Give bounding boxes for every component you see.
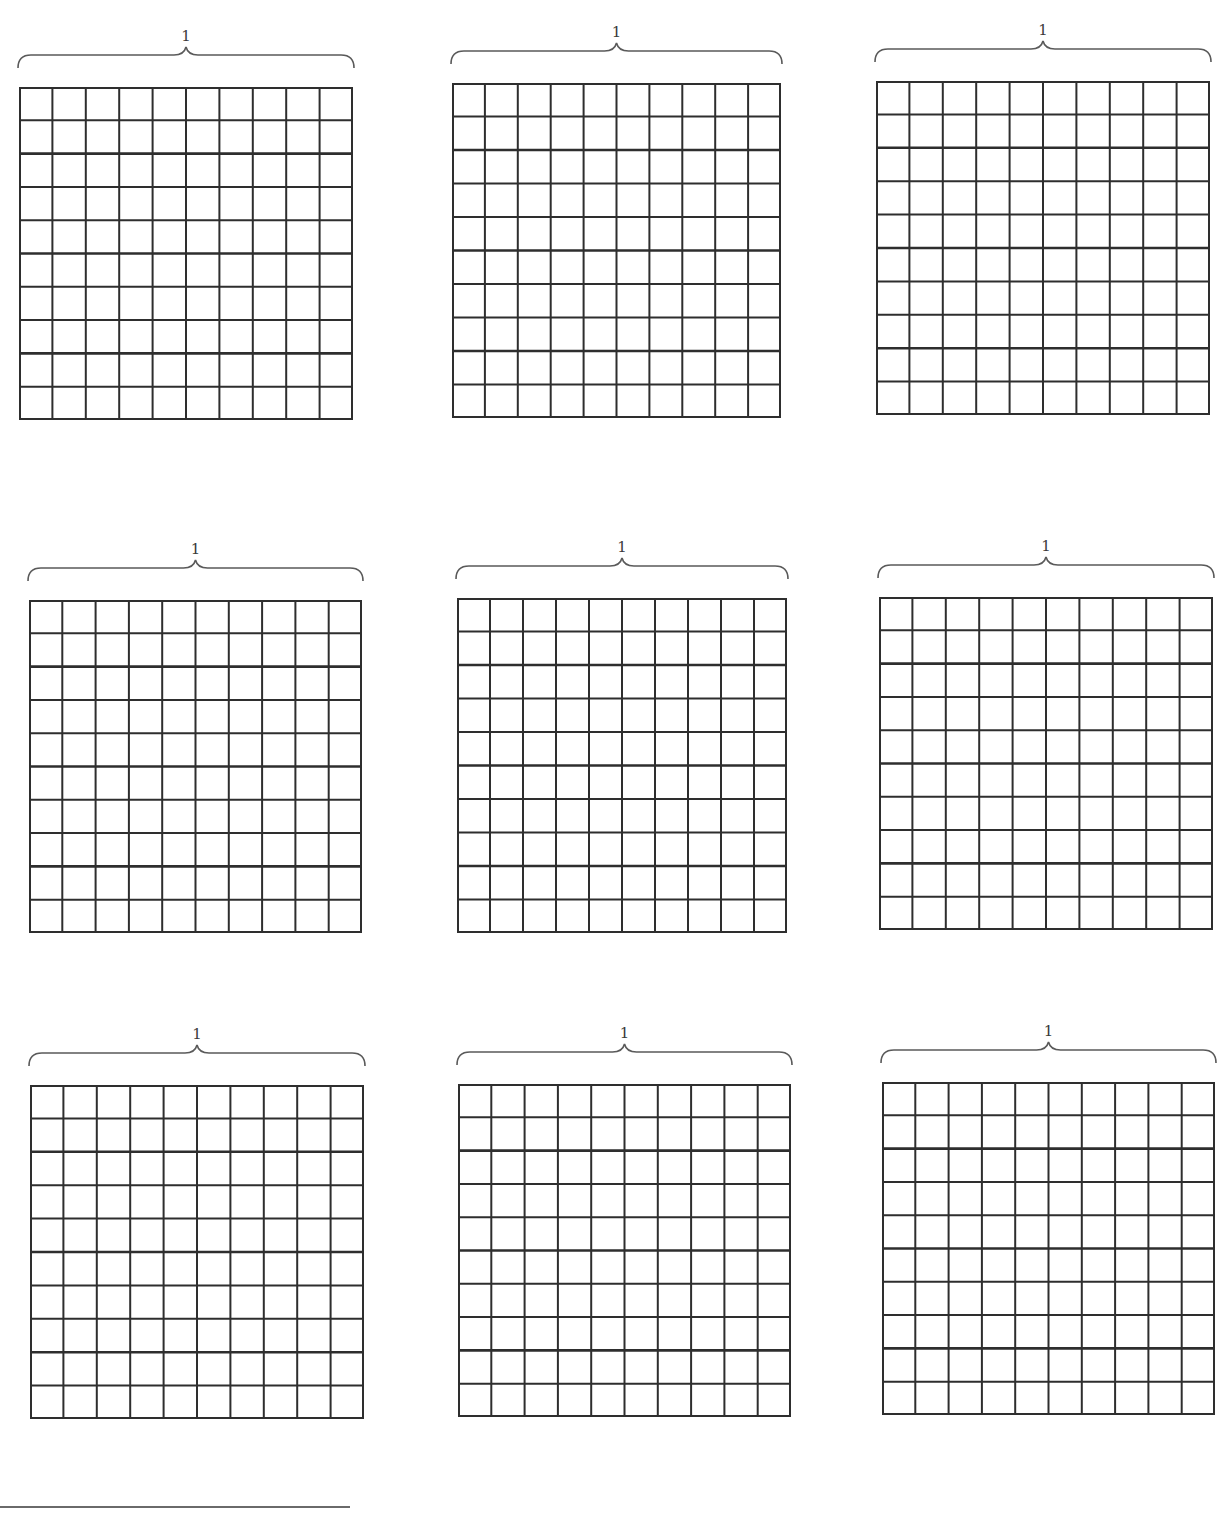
grid-cell[interactable] [946, 597, 979, 630]
grid-cell[interactable] [286, 254, 319, 287]
grid-cell[interactable] [1076, 114, 1109, 147]
grid-cell[interactable] [617, 318, 650, 352]
grid-cell[interactable] [1148, 1249, 1181, 1282]
grid-cell[interactable] [649, 318, 682, 352]
grid-cell[interactable] [452, 284, 485, 318]
grid-cell[interactable] [63, 1386, 96, 1419]
grid-cell[interactable] [1182, 1315, 1215, 1348]
grid-cell[interactable] [556, 900, 589, 934]
grid-cell[interactable] [329, 900, 362, 933]
grid-cell[interactable] [1046, 697, 1079, 730]
grid-cell[interactable] [909, 114, 942, 147]
grid-cell[interactable] [1079, 597, 1112, 630]
grid-cell[interactable] [882, 1215, 915, 1248]
grid-cell[interactable] [1177, 81, 1210, 114]
grid-cell[interactable] [331, 1252, 364, 1285]
grid-cell[interactable] [485, 251, 518, 285]
grid-cell[interactable] [485, 117, 518, 151]
grid-cell[interactable] [1143, 315, 1176, 348]
grid-cell[interactable] [1110, 315, 1143, 348]
grid-cell[interactable] [1146, 797, 1179, 830]
grid-cell[interactable] [1143, 348, 1176, 381]
grid-cell[interactable] [196, 866, 229, 899]
grid-cell[interactable] [882, 1315, 915, 1348]
grid-cell[interactable] [758, 1117, 791, 1150]
grid-cell[interactable] [295, 600, 328, 633]
grid-cell[interactable] [457, 665, 490, 699]
grid-cell[interactable] [758, 1251, 791, 1284]
grid-cell[interactable] [1146, 764, 1179, 797]
grid-cell[interactable] [1148, 1315, 1181, 1348]
grid-cell[interactable] [682, 217, 715, 251]
grid-cell[interactable] [490, 598, 523, 632]
grid-cell[interactable] [946, 697, 979, 730]
grid-cell[interactable] [622, 799, 655, 833]
grid-cell[interactable] [979, 764, 1012, 797]
grid-cell[interactable] [490, 632, 523, 666]
grid-cell[interactable] [1113, 630, 1146, 663]
grid-cell[interactable] [518, 351, 551, 385]
grid-cell[interactable] [879, 697, 912, 730]
grid-cell[interactable] [1082, 1249, 1115, 1282]
grid-cell[interactable] [490, 732, 523, 766]
grid-cell[interactable] [1043, 382, 1076, 415]
grid-cell[interactable] [591, 1217, 624, 1250]
grid-cell[interactable] [1049, 1149, 1082, 1182]
grid-cell[interactable] [62, 733, 95, 766]
grid-cell[interactable] [551, 150, 584, 184]
grid-cell[interactable] [162, 800, 195, 833]
grid-cell[interactable] [876, 382, 909, 415]
grid-cell[interactable] [1076, 281, 1109, 314]
grid-cell[interactable] [551, 351, 584, 385]
grid-cell[interactable] [584, 83, 617, 117]
grid-cell[interactable] [625, 1084, 658, 1117]
grid-cell[interactable] [219, 187, 252, 220]
grid-cell[interactable] [882, 1382, 915, 1415]
grid-cell[interactable] [1146, 830, 1179, 863]
grid-cell[interactable] [879, 630, 912, 663]
grid-cell[interactable] [457, 632, 490, 666]
grid-cell[interactable] [1043, 81, 1076, 114]
grid-cell[interactable] [1076, 248, 1109, 281]
grid-cell[interactable] [52, 254, 85, 287]
grid-cell[interactable] [490, 900, 523, 934]
grid-cell[interactable] [1010, 148, 1043, 181]
grid-cell[interactable] [229, 667, 262, 700]
grid-cell[interactable] [62, 600, 95, 633]
grid-cell[interactable] [909, 281, 942, 314]
grid-cell[interactable] [63, 1252, 96, 1285]
grid-cell[interactable] [485, 284, 518, 318]
grid-cell[interactable] [523, 632, 556, 666]
grid-cell[interactable] [452, 184, 485, 218]
grid-cell[interactable] [1043, 181, 1076, 214]
grid-cell[interactable] [682, 117, 715, 151]
grid-cell[interactable] [164, 1185, 197, 1218]
grid-cell[interactable] [1049, 1182, 1082, 1215]
grid-cell[interactable] [1046, 863, 1079, 896]
grid-cell[interactable] [219, 387, 252, 420]
grid-cell[interactable] [946, 830, 979, 863]
grid-cell[interactable] [943, 281, 976, 314]
grid-cell[interactable] [320, 120, 353, 153]
grid-cell[interactable] [119, 353, 152, 386]
grid-cell[interactable] [523, 732, 556, 766]
grid-cell[interactable] [1043, 114, 1076, 147]
grid-cell[interactable] [196, 833, 229, 866]
grid-cell[interactable] [297, 1219, 330, 1252]
grid-cell[interactable] [1180, 697, 1213, 730]
grid-cell[interactable] [1180, 797, 1213, 830]
grid-cell[interactable] [943, 315, 976, 348]
grid-cell[interactable] [52, 353, 85, 386]
grid-cell[interactable] [558, 1084, 591, 1117]
grid-cell[interactable] [556, 866, 589, 900]
grid-cell[interactable] [197, 1152, 230, 1185]
grid-cell[interactable] [558, 1284, 591, 1317]
grid-cell[interactable] [63, 1085, 96, 1118]
grid-cell[interactable] [458, 1350, 491, 1383]
grid-cell[interactable] [1079, 830, 1112, 863]
grid-cell[interactable] [525, 1251, 558, 1284]
grid-cell[interactable] [1043, 315, 1076, 348]
grid-cell[interactable] [129, 600, 162, 633]
grid-cell[interactable] [523, 598, 556, 632]
grid-cell[interactable] [1079, 797, 1112, 830]
